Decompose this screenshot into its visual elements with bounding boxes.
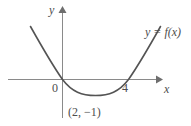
- origin-label: 0: [52, 82, 58, 94]
- y-axis-arrowhead: [59, 6, 67, 13]
- x-intercept-label-4: 4: [122, 82, 128, 94]
- parabola-curve: [31, 27, 161, 96]
- vertex-coordinate-label: (2, −1): [68, 106, 101, 118]
- x-axis-label: x: [164, 83, 169, 95]
- parabola-figure: y x 0 4 y = f(x) (2, −1): [0, 0, 191, 126]
- x-axis-arrowhead: [156, 76, 163, 84]
- y-axis-label: y: [49, 4, 54, 16]
- curve-equation-label: y = f(x): [145, 26, 181, 38]
